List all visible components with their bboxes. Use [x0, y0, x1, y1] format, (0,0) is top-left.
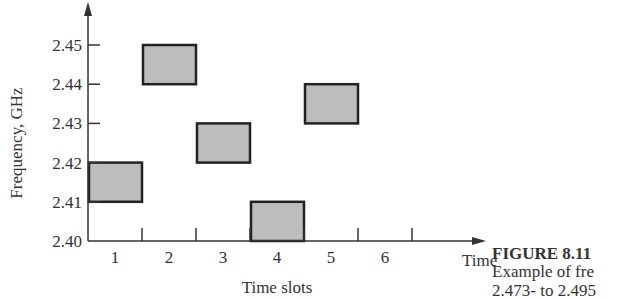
figure-caption-line-1: Example of fre [492, 262, 594, 282]
y-tick-label: 2.40 [52, 232, 82, 251]
y-tick-label: 2.44 [52, 75, 82, 94]
y-axis-arrow-icon [84, 2, 92, 16]
x-axis-title: Time slots [242, 278, 313, 297]
y-tick-label: 2.43 [52, 114, 82, 133]
y-tick-label: 2.41 [52, 193, 82, 212]
x-tick-label: 2 [165, 248, 174, 267]
x-tick-label: 1 [111, 248, 120, 267]
x-axis-arrow-icon [472, 237, 486, 245]
hop-boxes [89, 45, 358, 241]
figure-caption-title: FIGURE 8.11 [492, 244, 591, 264]
y-axis-title: Frequency, GHz [7, 87, 26, 199]
hop-box-slot-5 [305, 84, 358, 123]
x-tick-label: 4 [273, 248, 282, 267]
x-tick-label: 3 [219, 248, 228, 267]
y-tick-label: 2.45 [52, 36, 82, 55]
hop-box-slot-2 [143, 45, 196, 84]
x-tick-label: 5 [327, 248, 336, 267]
hop-box-slot-1 [89, 163, 142, 202]
y-tick-label: 2.42 [52, 154, 82, 173]
x-tick-label: 6 [381, 248, 390, 267]
figure-caption-line-2: 2.473- to 2.495 [492, 281, 596, 299]
hop-box-slot-3 [197, 123, 250, 162]
hop-box-slot-4 [251, 202, 304, 241]
y-ticks: 2.402.412.422.432.442.45 [52, 36, 100, 251]
